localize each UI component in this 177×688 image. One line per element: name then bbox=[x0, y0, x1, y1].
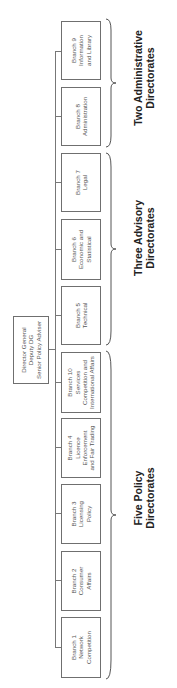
branch-8-box: Branch 8 Administration bbox=[61, 87, 101, 146]
branch-2-box: Branch 2 Consumer Affairs bbox=[61, 551, 101, 611]
branch-1-label: Branch 1 Network Competition bbox=[70, 631, 92, 664]
branch-8-label: Branch 8 Administration bbox=[74, 97, 89, 136]
branch-7-label: Branch 7 Legal bbox=[74, 170, 89, 195]
branch-5-box: Branch 5 Technical bbox=[61, 286, 101, 345]
branch-9-label: Branch 9 Information and Library bbox=[70, 35, 92, 66]
branch-10-box: Branch 10 Services Competition and Inter… bbox=[61, 352, 101, 413]
branch-9-box: Branch 9 Information and Library bbox=[61, 21, 101, 80]
director-general-label: Director General Deputy DG Senior Policy… bbox=[20, 321, 42, 379]
branch-3-label: Branch 3 Licensing Policy bbox=[70, 501, 92, 527]
policy-group-brace bbox=[104, 350, 118, 680]
advisory-group-brace bbox=[104, 152, 118, 346]
administrative-group-label: Two Administrative Directorates bbox=[133, 13, 156, 143]
branch-6-label: Branch 6 Economic and Statistical bbox=[70, 230, 92, 269]
branch-2-label: Branch 2 Consumer Affairs bbox=[70, 567, 92, 596]
branch-1-box: Branch 1 Network Competition bbox=[61, 617, 101, 678]
branch-bus-line bbox=[55, 51, 56, 648]
branch-3-box: Branch 3 Licensing Policy bbox=[61, 484, 101, 544]
branch-4-box: Branch 4 Licence Enforcement and Fair Tr… bbox=[61, 418, 101, 478]
administrative-group-brace bbox=[104, 18, 118, 148]
policy-group-label: Five Policy Directorates bbox=[133, 438, 156, 558]
branch-4-label: Branch 4 Licence Enforcement and Fair Tr… bbox=[66, 425, 96, 470]
org-chart: Director General Deputy DG Senior Policy… bbox=[0, 0, 177, 688]
director-general-box: Director General Deputy DG Senior Policy… bbox=[13, 316, 49, 384]
branch-5-label: Branch 5 Technical bbox=[74, 303, 89, 329]
branch-7-box: Branch 7 Legal bbox=[61, 153, 101, 212]
branch-6-box: Branch 6 Economic and Statistical bbox=[61, 219, 101, 280]
advisory-group-label: Three Advisory Directorates bbox=[133, 168, 156, 308]
branch-10-label: Branch 10 Services Competition and Inter… bbox=[66, 356, 96, 409]
